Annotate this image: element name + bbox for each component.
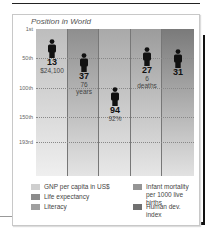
ytick-label: 193rd [14, 139, 33, 145]
ytick-label: 150th [14, 114, 33, 120]
value-label: deaths [131, 82, 163, 89]
person-icon [47, 39, 57, 58]
legend-swatch [31, 194, 40, 200]
marker-life-expectancy: 37 76 years [68, 53, 100, 95]
legend-label: GNP per capita in US$ [44, 183, 110, 191]
legend-swatch [31, 204, 40, 210]
legend-label: Literacy [44, 203, 67, 211]
gridline-193rd [36, 142, 194, 143]
legend-item-gnp: GNP per capita in US$ [31, 183, 110, 191]
person-icon [142, 47, 152, 66]
side-rule [203, 35, 205, 225]
ytick-label: 50th [14, 55, 33, 61]
legend-swatch [31, 184, 40, 190]
chart-title: Position in World [31, 17, 91, 26]
person-icon [173, 49, 183, 68]
marker-gnp: 13 $24,100 [36, 39, 68, 74]
rank-value: 27 [131, 66, 163, 75]
marker-hdi: 31 [162, 49, 194, 77]
rank-value: 31 [162, 68, 194, 77]
value-label: 92% [99, 115, 131, 122]
legend-item-literacy: Literacy [31, 203, 67, 211]
legend-swatch [133, 184, 142, 190]
rank-value: 37 [68, 72, 100, 81]
ytick-label: 100th [14, 85, 33, 91]
person-icon [79, 53, 89, 72]
rank-value: 13 [36, 58, 68, 67]
value-label: years [68, 88, 100, 95]
legend-label: Human dev. index [146, 203, 197, 219]
column-life-expectancy [68, 29, 99, 176]
legend-item-hdi: Human dev. index [133, 203, 197, 219]
plot-area: 1st 50th 100th 150th 193rd 13 $24,100 37… [36, 29, 194, 176]
marker-literacy: 94 92% [99, 87, 131, 122]
legend-item-life-expectancy: Life expectancy [31, 193, 89, 201]
top-rule [12, 3, 200, 4]
chart-card: Position in World 1st 50th 100th 150th 1… [12, 14, 200, 226]
legend-swatch [133, 204, 142, 210]
value-label: $24,100 [36, 67, 68, 74]
value-label: 6 [131, 75, 163, 82]
person-icon [110, 87, 120, 106]
marker-infant-mortality: 27 6 deaths [131, 47, 163, 89]
value-label: 76 [68, 81, 100, 88]
rank-value: 94 [99, 106, 131, 115]
side-rule-foot [200, 222, 205, 225]
legend-label: Life expectancy [44, 193, 89, 201]
ytick-label: 1st [14, 26, 33, 32]
left-rule [0, 216, 12, 217]
